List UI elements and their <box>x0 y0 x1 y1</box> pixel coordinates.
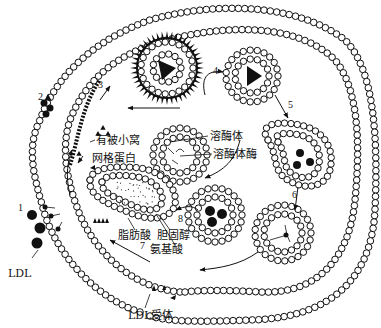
membrane-beads <box>29 5 379 325</box>
label-ldl-receptor: LDL受体 <box>128 310 173 321</box>
endocytosis-diagram <box>0 0 381 328</box>
step-5-number: 5 <box>288 100 293 110</box>
step-3-number: 3 <box>98 80 103 90</box>
step-2-number: 2 <box>38 92 43 102</box>
step-6-number: 6 <box>292 190 297 200</box>
step-4-number: 4 <box>213 66 218 76</box>
label-lysosomal-enzyme: 溶酶体酶 <box>213 149 257 160</box>
step-8-number: 8 <box>178 214 183 224</box>
label-cholesterol: 胆固醇 <box>157 230 190 241</box>
label-lysosome: 溶酶体 <box>210 131 243 142</box>
label-coated-pit: 有被小窝 <box>96 135 140 146</box>
label-ldl: LDL <box>8 268 31 279</box>
label-amino-acid: 氨基酸 <box>150 244 183 255</box>
step-1-number: 1 <box>18 203 23 213</box>
label-fatty-acid: 脂肪酸 <box>118 230 151 241</box>
label-clathrin: 网格蛋白 <box>92 153 136 164</box>
step-7-number: 7 <box>140 241 145 251</box>
